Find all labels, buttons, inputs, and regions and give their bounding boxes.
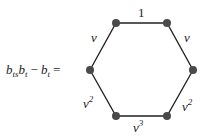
edge-label-upper-right: v (184, 30, 190, 45)
hexagon-vertices (86, 19, 197, 120)
hexagon-diagram: btsbt−bt= 1 v v2 v3 v2 v (0, 0, 205, 137)
edge-label-lower-right: v2 (182, 97, 193, 114)
vertex-left (86, 66, 94, 74)
vertex-bottom-left (112, 112, 120, 120)
edge-label-upper-left: v (91, 30, 97, 45)
hexagon-edges (90, 23, 193, 116)
vertex-top-left (112, 19, 120, 27)
vertex-right (189, 66, 197, 74)
equation-lhs: btsbt−bt= (6, 62, 60, 79)
edge-label-lower-left: v2 (83, 94, 94, 111)
edge-label-bottom: v3 (133, 118, 144, 135)
edge-label-top: 1 (138, 5, 145, 20)
vertex-bottom-right (163, 112, 171, 120)
vertex-top-right (163, 19, 171, 27)
